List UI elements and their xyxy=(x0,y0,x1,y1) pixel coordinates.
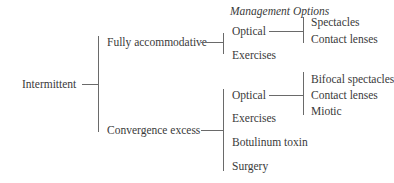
connector-ce-optical xyxy=(269,95,303,96)
node-fa-spectacles: Spectacles xyxy=(311,16,360,28)
bracket-fa-optical xyxy=(303,17,304,43)
connector-root xyxy=(82,84,98,85)
node-intermittent: Intermittent xyxy=(22,78,76,90)
node-ce-exercises: Exercises xyxy=(232,112,276,124)
node-fully-accommodative: Fully accommodative xyxy=(107,36,207,48)
node-ce-optical: Optical xyxy=(232,89,266,101)
node-convergence-excess: Convergence excess xyxy=(107,124,200,136)
node-fa-contact-lenses: Contact lenses xyxy=(311,33,378,45)
node-ce-surgery: Surgery xyxy=(232,160,268,172)
node-ce-contact-lenses: Contact lenses xyxy=(311,89,378,101)
node-ce-bifocal-spectacles: Bifocal spectacles xyxy=(311,73,394,85)
node-fa-exercises: Exercises xyxy=(232,49,276,61)
bracket-fully-accommodative xyxy=(223,33,224,54)
node-ce-botulinum-toxin: Botulinum toxin xyxy=(232,136,308,148)
node-fa-optical: Optical xyxy=(232,25,266,37)
connector-fa-optical xyxy=(269,31,303,32)
bracket-root xyxy=(98,36,99,132)
connector-convergence-excess xyxy=(201,130,223,131)
bracket-convergence-excess xyxy=(223,89,224,171)
connector-fully-accommodative xyxy=(201,42,223,43)
bracket-ce-optical xyxy=(303,72,304,115)
node-ce-miotic: Miotic xyxy=(311,105,342,117)
